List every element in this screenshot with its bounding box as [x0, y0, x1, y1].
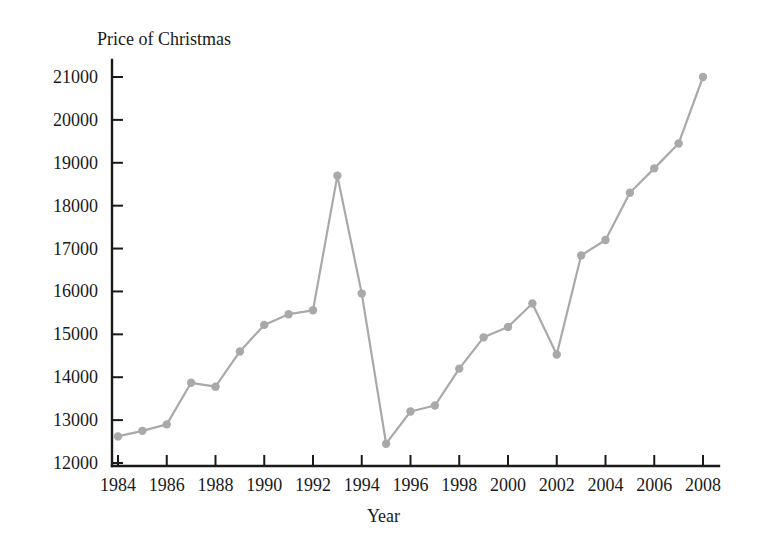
- data-point-marker: [163, 420, 171, 428]
- data-point-marker: [114, 432, 122, 440]
- x-tick-label: 1988: [198, 475, 234, 495]
- y-tick-label: 20000: [53, 110, 98, 130]
- y-tick-label: 21000: [53, 67, 98, 87]
- data-series-line: [118, 77, 703, 444]
- x-tick-label: 1984: [100, 475, 136, 495]
- data-point-marker: [455, 364, 463, 372]
- data-point-marker: [309, 306, 317, 314]
- x-axis-title: Year: [0, 505, 767, 527]
- y-tick-label: 12000: [53, 453, 98, 473]
- data-point-marker: [236, 347, 244, 355]
- data-point-marker: [211, 382, 219, 390]
- data-point-marker: [284, 310, 292, 318]
- data-point-marker: [650, 164, 658, 172]
- data-point-marker: [504, 323, 512, 331]
- y-tick-label: 14000: [53, 367, 98, 387]
- data-point-marker: [553, 350, 561, 358]
- x-tick-label: 1998: [441, 475, 477, 495]
- data-point-marker: [187, 379, 195, 387]
- x-axis-ticks: 1984198619881990199219941996199820002002…: [100, 455, 721, 495]
- y-tick-label: 15000: [53, 324, 98, 344]
- data-point-marker: [333, 171, 341, 179]
- data-point-marker: [601, 236, 609, 244]
- chart-container: Price of Christmas 120001300014000150001…: [0, 0, 767, 554]
- x-tick-label: 2002: [539, 475, 575, 495]
- x-tick-label: 1996: [393, 475, 429, 495]
- data-point-marker: [528, 299, 536, 307]
- x-tick-label: 1990: [246, 475, 282, 495]
- data-point-marker: [479, 333, 487, 341]
- x-tick-label: 2000: [490, 475, 526, 495]
- y-tick-label: 19000: [53, 153, 98, 173]
- data-point-marker: [382, 440, 390, 448]
- y-tick-label: 17000: [53, 239, 98, 259]
- data-point-marker: [674, 139, 682, 147]
- x-tick-label: 1986: [149, 475, 185, 495]
- y-tick-label: 16000: [53, 281, 98, 301]
- data-point-marker: [260, 321, 268, 329]
- x-tick-label: 1994: [344, 475, 380, 495]
- x-tick-label: 1992: [295, 475, 331, 495]
- x-tick-label: 2008: [685, 475, 721, 495]
- x-tick-label: 2004: [588, 475, 624, 495]
- data-point-marker: [406, 407, 414, 415]
- data-point-marker: [577, 251, 585, 259]
- y-tick-label: 13000: [53, 410, 98, 430]
- y-tick-label: 18000: [53, 196, 98, 216]
- data-point-marker: [358, 289, 366, 297]
- x-tick-label: 2006: [636, 475, 672, 495]
- data-point-marker: [138, 427, 146, 435]
- data-point-markers: [114, 73, 707, 448]
- data-point-marker: [431, 401, 439, 409]
- data-point-marker: [626, 189, 634, 197]
- data-point-marker: [699, 73, 707, 81]
- chart-plot-area: 1200013000140001500016000170001800019000…: [0, 0, 767, 554]
